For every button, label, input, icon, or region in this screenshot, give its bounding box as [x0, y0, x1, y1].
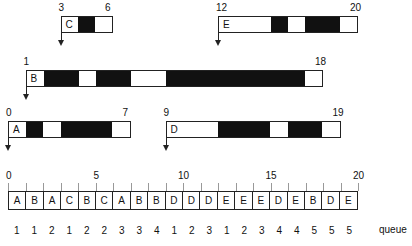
timeline-cell: E	[253, 192, 270, 209]
queue-length: 5	[306, 225, 324, 236]
process-label: B	[31, 74, 38, 84]
queue-length: 4	[148, 225, 166, 236]
queue-length: 1	[8, 225, 26, 236]
timeline-tick	[183, 183, 184, 191]
process-start-time: 3	[59, 3, 65, 13]
running-segment	[78, 17, 95, 32]
timeline-tick-label: 10	[178, 171, 189, 181]
timeline-tick-label: 5	[94, 171, 100, 181]
process-start-time: 1	[24, 57, 30, 67]
timeline-cell: B	[26, 192, 43, 209]
timeline-tick	[201, 183, 202, 191]
process-start-time: 0	[6, 108, 12, 118]
queue-length: 2	[236, 225, 254, 236]
timeline-tick	[78, 183, 79, 191]
timeline-cell: C	[61, 192, 78, 209]
timeline-tick	[218, 183, 219, 191]
queue-length: 5	[341, 225, 359, 236]
waiting-segment	[95, 17, 112, 32]
timeline-tick	[96, 183, 97, 191]
timeline-tick	[26, 183, 27, 191]
process-end-time: 19	[333, 108, 344, 118]
waiting-segment	[43, 122, 60, 137]
queue-length: 2	[183, 225, 201, 236]
queue-label: queue	[379, 225, 407, 235]
timeline-cell: D	[183, 192, 200, 209]
queue-length: 1	[218, 225, 236, 236]
waiting-segment	[305, 71, 322, 86]
timeline-cell: B	[305, 192, 322, 209]
running-segment	[218, 122, 270, 137]
timeline-cell: B	[131, 192, 148, 209]
running-segment	[44, 71, 79, 86]
down-arrow-icon	[5, 145, 11, 151]
running-segment	[26, 122, 43, 137]
queue-length: 3	[253, 225, 271, 236]
timeline-tick	[113, 183, 114, 191]
waiting-segment	[322, 122, 339, 137]
process-start-time: 12	[216, 3, 227, 13]
running-segment	[61, 122, 113, 137]
timeline-tick	[306, 183, 307, 191]
running-segment	[96, 71, 131, 86]
waiting-segment	[340, 17, 357, 32]
running-segment	[305, 17, 340, 32]
process-end-time: 20	[350, 3, 361, 13]
process-label: A	[13, 125, 20, 135]
timeline-tick	[236, 183, 237, 191]
waiting-segment	[131, 71, 166, 86]
timeline-tick-label: 15	[266, 171, 277, 181]
process-end-time: 6	[105, 3, 111, 13]
process-bar-c: C	[61, 16, 114, 33]
down-arrow-icon	[215, 40, 221, 46]
timeline-tick	[61, 183, 62, 191]
timeline-cell: E	[288, 192, 305, 209]
process-label: E	[223, 20, 230, 30]
process-end-time: 18	[315, 57, 326, 67]
timeline-tick-label: 0	[6, 171, 12, 181]
timeline-cell: D	[322, 192, 339, 209]
queue-length: 3	[201, 225, 219, 236]
queue-length: 3	[113, 225, 131, 236]
timeline-tick	[271, 183, 272, 191]
timeline-cell: A	[44, 192, 61, 209]
timeline-cell: D	[166, 192, 183, 209]
process-bar-a: A	[8, 121, 131, 138]
timeline-tick	[253, 183, 254, 191]
timeline-tick	[148, 183, 149, 191]
timeline-cell: B	[148, 192, 165, 209]
queue-length: 5	[323, 225, 341, 236]
waiting-segment	[288, 17, 305, 32]
running-segment	[271, 17, 288, 32]
queue-length: 4	[288, 225, 306, 236]
down-arrow-icon	[163, 145, 169, 151]
timeline-cell: D	[270, 192, 287, 209]
process-label: D	[171, 125, 178, 135]
down-arrow-icon	[23, 94, 29, 100]
process-start-time: 9	[164, 108, 170, 118]
timeline-tick	[341, 183, 342, 191]
timeline-tick	[323, 183, 324, 191]
running-segment	[288, 122, 323, 137]
timeline-tick	[131, 183, 132, 191]
queue-length: 2	[43, 225, 61, 236]
timeline-cell: A	[9, 192, 26, 209]
queue-length: 1	[61, 225, 79, 236]
timeline-tick	[166, 183, 167, 191]
timeline-tick-label: 20	[353, 171, 364, 181]
queue-length: 4	[271, 225, 289, 236]
timeline-cell: E	[235, 192, 252, 209]
queue-length: 3	[131, 225, 149, 236]
down-arrow-icon	[58, 40, 64, 46]
queue-length: 1	[166, 225, 184, 236]
timeline-cell: A	[113, 192, 130, 209]
queue-length: 1	[26, 225, 44, 236]
queue-length: 2	[96, 225, 114, 236]
timeline-cell: E	[340, 192, 357, 209]
timeline-cell: E	[218, 192, 235, 209]
process-label: C	[66, 20, 73, 30]
process-bar-b: B	[26, 70, 324, 87]
process-end-time: 7	[123, 108, 129, 118]
running-segment	[166, 71, 305, 86]
timeline-tick	[43, 183, 44, 191]
